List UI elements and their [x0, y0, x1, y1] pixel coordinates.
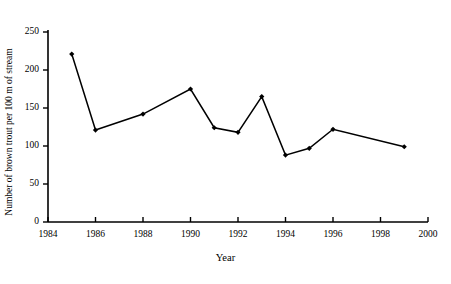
x-tick-label: 1990 — [181, 230, 200, 240]
data-point-marker — [93, 127, 98, 132]
y-axis-title: Number of brown trout per 100 m of strea… — [5, 27, 15, 237]
data-point-marker — [140, 111, 145, 116]
plot-area — [0, 0, 451, 284]
x-tick-label: 1994 — [276, 230, 295, 240]
data-point-marker — [283, 153, 288, 158]
axes — [48, 30, 428, 222]
data-series-line — [72, 54, 405, 155]
x-tick-label: 1986 — [86, 230, 105, 240]
x-tick-label: 2000 — [419, 230, 438, 240]
data-point-marker — [402, 144, 407, 149]
brown-trout-line-chart: 050100150200250 198419861988199019921994… — [0, 0, 451, 284]
x-tick-label: 1996 — [324, 230, 343, 240]
x-tick-label: 1984 — [39, 230, 58, 240]
x-axis-title: Year — [0, 253, 451, 264]
data-point-markers — [69, 51, 407, 157]
x-tick-label: 1992 — [229, 230, 248, 240]
x-tick-label: 1988 — [134, 230, 153, 240]
x-tick-label: 1998 — [371, 230, 390, 240]
data-point-marker — [69, 51, 74, 56]
